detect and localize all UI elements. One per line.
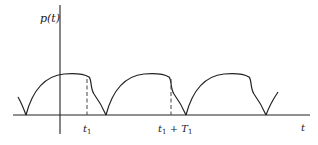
waveform-cycle (26, 74, 106, 115)
waveform-cycle (106, 74, 186, 115)
waveform-cycle (186, 74, 266, 115)
waveform-curve (18, 74, 278, 115)
waveform-leading-tail (18, 97, 26, 115)
y-axis-label: p(t) (40, 12, 60, 25)
t1-label: t1 (83, 123, 92, 136)
waveform-trailing-tail (266, 92, 278, 115)
t1-plus-T1-label: t1 + T1 (158, 123, 192, 136)
waveform-diagram: p(t) t1 t1 + T1 t (0, 0, 318, 145)
x-axis-label: t (301, 122, 306, 133)
